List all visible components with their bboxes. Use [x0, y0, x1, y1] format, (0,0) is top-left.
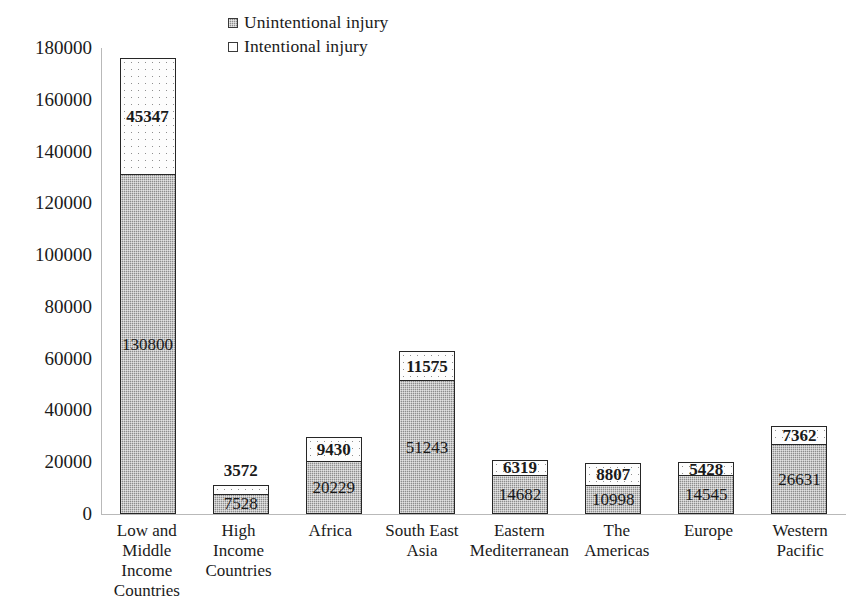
y-axis-tick-label: 60000: [45, 348, 93, 370]
stacked-bar[interactable]: 631914682: [492, 460, 548, 514]
y-axis-tick-label: 40000: [45, 399, 93, 421]
bar-group: 35727528: [194, 48, 287, 514]
category-label-line: The: [573, 521, 661, 541]
bar-value-label: 3572: [224, 461, 258, 481]
y-axis-tick-label: 180000: [35, 37, 92, 59]
bar-value-label: 45347: [126, 108, 169, 125]
category-label-line: Middle: [103, 541, 191, 561]
category-label-line: Europe: [665, 521, 753, 541]
bar-group: 943020229: [287, 48, 380, 514]
bar-value-label: 6319: [503, 459, 537, 476]
x-axis-category-label: South EastAsia: [376, 521, 468, 601]
category-label-line: Mediterranean: [470, 541, 569, 561]
bar-segment-intentional[interactable]: 11575: [399, 351, 455, 381]
category-label-line: South East: [378, 521, 466, 541]
bar-value-label: 10998: [592, 491, 635, 508]
bar-segment-intentional[interactable]: 8807: [585, 463, 641, 486]
bar-value-label: 9430: [317, 441, 351, 458]
category-label-line: Income: [103, 561, 191, 581]
legend-item-unintentional-injury[interactable]: Unintentional injury: [228, 12, 388, 34]
x-axis-line: [101, 514, 846, 515]
bar-segment-unintentional[interactable]: 51243: [399, 381, 455, 514]
stacked-bar[interactable]: 35727528: [213, 485, 269, 514]
category-label-line: Pacific: [756, 541, 844, 561]
x-axis-category-label: Low andMiddleIncomeCountries: [101, 521, 193, 601]
bar-value-label: 14682: [499, 486, 542, 503]
y-axis-tick-label: 0: [83, 503, 93, 525]
stacked-bar[interactable]: 45347130800: [120, 58, 176, 514]
bar-value-label: 51243: [406, 439, 449, 456]
x-axis-category-label: Europe: [663, 521, 755, 601]
y-axis-tick-label: 120000: [35, 192, 92, 214]
bar-segment-intentional[interactable]: 45347: [120, 58, 176, 175]
bar-segment-intentional[interactable]: 7362: [771, 426, 827, 445]
stacked-bar[interactable]: 542814545: [678, 462, 734, 514]
x-axis-category-label: High IncomeCountries: [193, 521, 285, 601]
bar-segment-intentional[interactable]: 5428: [678, 462, 734, 476]
y-axis-tick-label: 160000: [35, 89, 92, 111]
legend-swatch-icon: [228, 18, 238, 28]
bar-value-label: 14545: [685, 486, 728, 503]
category-label-line: Countries: [103, 581, 191, 601]
category-label-line: Western: [756, 521, 844, 541]
stacked-bar-chart: Unintentional injury Intentional injury …: [0, 0, 867, 611]
category-label-line: Countries: [195, 561, 283, 581]
bar-segment-unintentional[interactable]: 14682: [492, 476, 548, 514]
bar-value-label: 5428: [689, 461, 723, 478]
x-axis-category-label: TheAmericas: [571, 521, 663, 601]
x-axis-category-label: Africa: [284, 521, 376, 601]
bar-segment-unintentional[interactable]: 26631: [771, 445, 827, 514]
bar-segment-intentional[interactable]: 9430: [306, 437, 362, 461]
bar-value-label: 26631: [778, 471, 821, 488]
bar-segment-unintentional[interactable]: 14545: [678, 476, 734, 514]
bar-group: 880710998: [567, 48, 660, 514]
bar-group: 736226631: [753, 48, 846, 514]
bar-group: 45347130800: [101, 48, 194, 514]
y-axis-tick-label: 80000: [45, 296, 93, 318]
stacked-bar[interactable]: 943020229: [306, 437, 362, 514]
x-axis-category-labels: Low andMiddleIncomeCountriesHigh IncomeC…: [101, 521, 846, 601]
bar-segment-unintentional[interactable]: 130800: [120, 175, 176, 514]
y-axis-tick-label: 100000: [35, 244, 92, 266]
bar-value-label: 11575: [406, 358, 448, 375]
category-label-line: Americas: [573, 541, 661, 561]
bar-value-label: 7362: [782, 427, 816, 444]
category-label-line: Asia: [378, 541, 466, 561]
bar-segment-unintentional[interactable]: 20229: [306, 462, 362, 514]
y-axis-tick-label: 20000: [45, 451, 93, 473]
bar-value-label: 130800: [122, 336, 173, 353]
stacked-bar[interactable]: 880710998: [585, 463, 641, 514]
category-label-line: Low and: [103, 521, 191, 541]
x-axis-category-label: WesternPacific: [754, 521, 846, 601]
y-axis-tick-label: 140000: [35, 141, 92, 163]
bar-segment-intentional[interactable]: 6319: [492, 460, 548, 476]
bar-series-layer: 4534713080035727528943020229115755124363…: [101, 48, 846, 514]
bar-segment-unintentional[interactable]: 10998: [585, 486, 641, 514]
bar-group: 631914682: [474, 48, 567, 514]
bar-group: 1157551243: [380, 48, 473, 514]
bar-group: 542814545: [660, 48, 753, 514]
plot-area: 1800001600001400001200001000008000060000…: [101, 48, 846, 515]
bar-value-label: 8807: [596, 466, 630, 483]
stacked-bar[interactable]: 1157551243: [399, 351, 455, 514]
x-axis-category-label: EasternMediterranean: [468, 521, 571, 601]
category-label-line: High Income: [195, 521, 283, 561]
bar-value-label: 20229: [313, 479, 356, 496]
legend-label: Unintentional injury: [244, 14, 388, 32]
category-label-line: Africa: [286, 521, 374, 541]
category-label-line: Eastern: [470, 521, 569, 541]
bar-value-label: 7528: [224, 495, 258, 512]
bar-segment-unintentional[interactable]: 7528: [213, 495, 269, 514]
bar-segment-intentional[interactable]: 3572: [213, 485, 269, 494]
stacked-bar[interactable]: 736226631: [771, 426, 827, 514]
